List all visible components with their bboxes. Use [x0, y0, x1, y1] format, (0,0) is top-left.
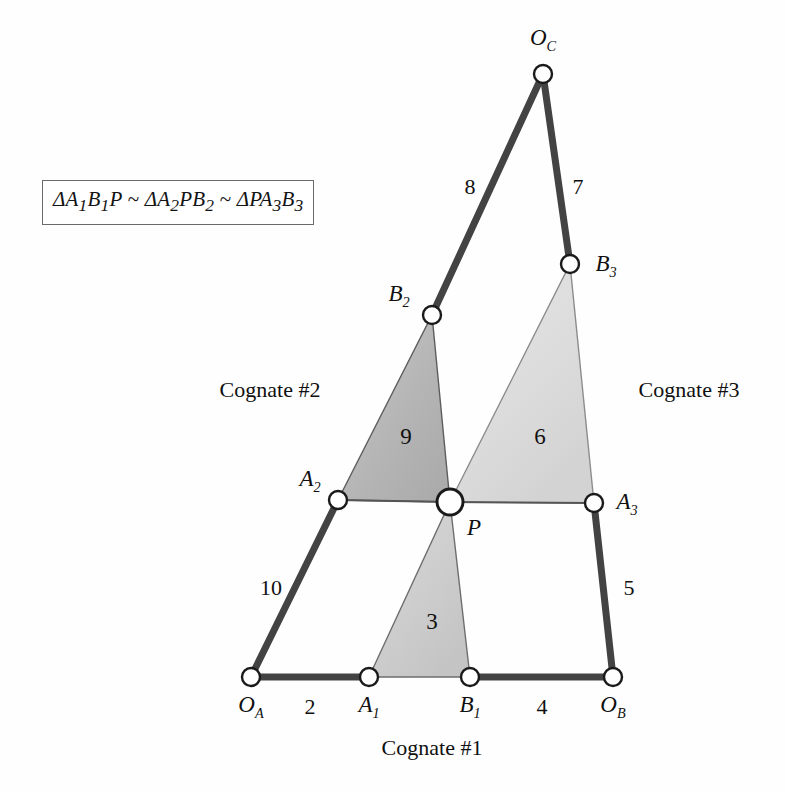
joint-label-P: P [467, 515, 481, 541]
link-PA3-line [450, 502, 594, 503]
formula-sub-2: 1 [101, 195, 110, 215]
joint-label-OB-sub: B [617, 705, 626, 721]
link-8-line [432, 74, 543, 315]
joint-label-A2-sub: 2 [313, 479, 320, 495]
formula-term-3: ΔPA3B3 [237, 187, 304, 211]
triangle-9-body [338, 315, 450, 502]
formula-term-1: ΔA1B1P [53, 187, 122, 211]
joint-P[interactable] [437, 489, 463, 515]
formula-tilde-1: ~ [128, 187, 145, 211]
joint-label-B2-sub: 2 [402, 294, 409, 310]
joint-label-A1: A1 [358, 692, 379, 722]
joint-label-A1-sub: 1 [372, 705, 379, 721]
joint-A3[interactable] [585, 494, 603, 512]
joint-A2[interactable] [329, 491, 347, 509]
link-label-5: 5 [624, 575, 635, 601]
joint-label-B3-sub: 3 [609, 264, 616, 280]
figure-canvas: ΔA1B1P ~ ΔA2PB2 ~ ΔPA3B3 OC B3 B2 A2 P A… [0, 0, 785, 792]
triangle-label-6: 6 [534, 424, 546, 450]
joint-B3[interactable] [561, 255, 579, 273]
joint-label-B1: B1 [459, 692, 480, 722]
link-5-line [594, 503, 613, 677]
joint-B1[interactable] [461, 668, 479, 686]
joint-label-OC-sub: C [547, 38, 557, 54]
triangle-label-3: 3 [426, 609, 438, 635]
joint-B2[interactable] [423, 306, 441, 324]
similarity-formula-box: ΔA1B1P ~ ΔA2PB2 ~ ΔPA3B3 [42, 180, 314, 225]
joint-label-A2: A2 [299, 466, 320, 496]
joint-A1[interactable] [360, 668, 378, 686]
similarity-formula-text: ΔA1B1P ~ ΔA2PB2 ~ ΔPA3B3 [53, 187, 303, 216]
joint-OB[interactable] [604, 668, 622, 686]
formula-sub-6: 3 [295, 195, 304, 215]
joint-label-A3-sub: 3 [630, 502, 637, 518]
annotation-cognate-3: Cognate #3 [639, 377, 740, 403]
joint-OA[interactable] [242, 668, 260, 686]
joint-label-B2: B2 [388, 281, 409, 311]
link-label-10: 10 [260, 575, 282, 601]
triangle-3-body [369, 502, 470, 677]
triangle-bodies [338, 264, 594, 677]
joint-label-OA-sub: A [255, 705, 264, 721]
joint-label-OC: OC [530, 25, 556, 55]
link-label-7: 7 [573, 174, 584, 200]
joint-label-OA: OA [238, 692, 263, 722]
link-7-line [543, 74, 570, 264]
annotation-cognate-2: Cognate #2 [220, 377, 321, 403]
link-label-2: 2 [305, 694, 316, 720]
formula-sub-4: 2 [205, 195, 214, 215]
formula-sub-1: 1 [79, 195, 88, 215]
formula-tilde-2: ~ [220, 187, 237, 211]
link-label-8: 8 [465, 174, 476, 200]
formula-sub-3: 2 [170, 195, 179, 215]
joint-OC[interactable] [534, 65, 552, 83]
annotation-cognate-1: Cognate #1 [382, 735, 483, 761]
joint-label-OB: OB [600, 692, 625, 722]
triangle-label-9: 9 [400, 424, 412, 450]
joint-label-B3: B3 [595, 251, 616, 281]
formula-term-2: ΔA2PB2 [145, 187, 215, 211]
joint-label-B1-sub: 1 [473, 705, 480, 721]
link-label-4: 4 [537, 694, 548, 720]
triangle-6-body [450, 264, 594, 503]
joint-label-A3: A3 [616, 489, 637, 519]
